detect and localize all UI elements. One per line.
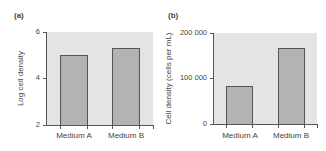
x-tick	[304, 124, 305, 128]
y-tick-4	[43, 78, 47, 79]
y-axis-a	[46, 32, 47, 126]
y-tick-label-100000: 100 000	[173, 74, 207, 82]
category-label-medium-b: Medium B	[266, 131, 316, 140]
y-tick-label-0: 0	[173, 120, 207, 128]
y-axis-b	[213, 33, 214, 125]
panel-label-a: (a)	[14, 11, 24, 20]
y-tick-6	[43, 32, 47, 33]
y-tick-label-2: 2	[20, 121, 40, 129]
x-tick	[112, 125, 113, 129]
x-tick	[87, 125, 88, 129]
y-tick-200000	[210, 33, 214, 34]
x-tick	[278, 124, 279, 128]
bar-medium-b	[112, 48, 140, 126]
x-tick	[153, 125, 154, 129]
x-tick	[252, 124, 253, 128]
x-tick	[317, 124, 318, 128]
y-axis-label-a: Log cell density	[16, 39, 25, 119]
y-axis-label-b: Cell density (cells per mL)	[164, 23, 173, 135]
panel-label-b: (b)	[168, 11, 178, 20]
bar-medium-a	[60, 55, 88, 126]
x-tick	[226, 124, 227, 128]
y-tick-2	[43, 125, 47, 126]
x-tick	[60, 125, 61, 129]
y-tick-label-200000: 200 000	[173, 29, 207, 37]
y-tick-0	[210, 124, 214, 125]
category-label-medium-a: Medium A	[215, 131, 265, 140]
category-label-medium-b: Medium B	[101, 131, 151, 140]
chart-panel-b: (b) 200 000 100 000 0 Cell density (cell…	[163, 0, 326, 151]
y-tick-label-6: 6	[20, 28, 40, 36]
bar-medium-a	[226, 86, 253, 125]
category-label-medium-a: Medium A	[49, 131, 99, 140]
bar-medium-b	[278, 48, 305, 125]
x-tick	[139, 125, 140, 129]
chart-panel-a: (a) 6 4 2 Log cell density Medium A Medi…	[0, 0, 163, 151]
y-tick-100000	[210, 78, 214, 79]
